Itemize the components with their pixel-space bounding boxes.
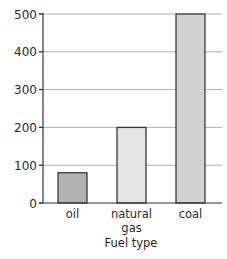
y-tick-label: 500 (14, 8, 37, 22)
y-tick-label: 300 (14, 83, 37, 97)
bar-coal (176, 14, 205, 203)
y-tick-label: 0 (29, 197, 37, 211)
x-tick-label: gas (121, 221, 141, 235)
x-axis-title: Fuel type (105, 236, 158, 250)
x-tick-label: coal (179, 207, 203, 221)
y-tick-label: 100 (14, 159, 37, 173)
bars (58, 14, 205, 203)
x-tick-labels: oilnaturalgascoal (66, 207, 203, 235)
y-tick-labels: 0100200300400500 (14, 8, 43, 211)
y-tick-label: 200 (14, 121, 37, 135)
x-tick-label: natural (111, 207, 152, 221)
y-tick-label: 400 (14, 45, 37, 59)
bar-natural-gas (117, 127, 146, 203)
bar-oil (58, 173, 87, 203)
x-tick-label: oil (66, 207, 79, 221)
bar-chart: 0100200300400500 oilnaturalgascoal Fuel … (0, 0, 227, 259)
